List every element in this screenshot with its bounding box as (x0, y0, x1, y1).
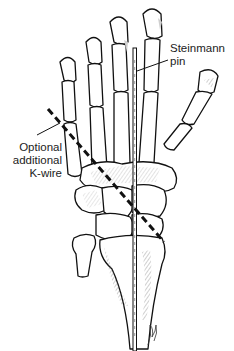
steinmann-pin[interactable] (133, 48, 137, 351)
ring-finger-bones (86, 38, 107, 171)
thumb-bones (164, 70, 218, 150)
carpal-bones (75, 162, 177, 241)
index-finger-bones (139, 9, 162, 166)
steinmann-pin-label-line2: pin (170, 55, 225, 68)
steinmann-pin-label-line1: Steinmann (170, 42, 225, 55)
steinmann-pin-label: Steinmann pin (170, 42, 225, 68)
k-wire-label: Optional additional K-wire (4, 141, 62, 180)
k-wire-label-line2: additional (4, 154, 62, 167)
little-finger-bones (60, 58, 82, 177)
forearm-bones (72, 234, 165, 349)
k-wire-label-line1: Optional (4, 141, 62, 154)
k-wire-leader-line (37, 123, 60, 135)
illustration: Steinmann pin Optional additional K-wire (0, 0, 234, 351)
middle-finger-bones (110, 17, 130, 166)
k-wire-label-line3: K-wire (4, 167, 62, 180)
